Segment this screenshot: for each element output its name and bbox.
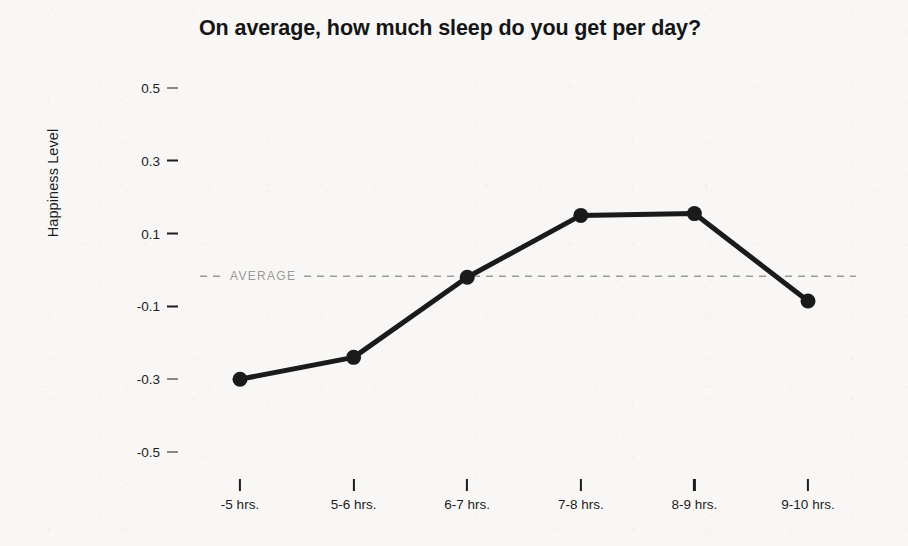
series-data-point (573, 208, 588, 223)
average-line-label: AVERAGE (224, 269, 302, 283)
series-data-point (233, 372, 248, 387)
series-line-happiness (240, 214, 808, 380)
series-data-point (687, 206, 702, 221)
plot-area (0, 0, 908, 546)
series-marker-group (233, 206, 816, 387)
series-data-point (460, 270, 475, 285)
series-data-point (346, 350, 361, 365)
line-chart: On average, how much sleep do you get pe… (0, 0, 908, 546)
series-data-point (801, 293, 816, 308)
